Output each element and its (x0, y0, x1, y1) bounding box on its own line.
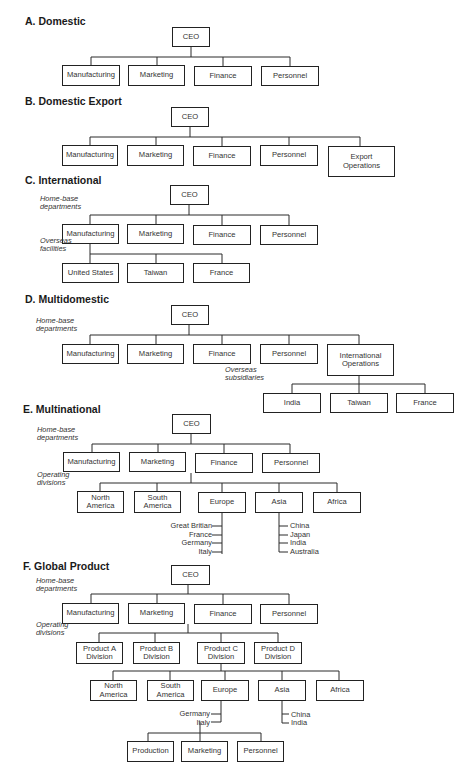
org-box-international-operations: International Operations (327, 344, 394, 376)
level-annotation: Overseas subsidiaries (225, 366, 264, 382)
org-box-export-operations: Export Operations (328, 146, 395, 177)
section-title-c: C. International (25, 174, 101, 186)
org-box-north-america: North America (90, 680, 137, 701)
level-annotation: Operating divisions (36, 621, 68, 637)
org-box-ceo: CEO (172, 27, 210, 47)
org-box-africa: Africa (316, 680, 364, 701)
org-box-asia: Asia (258, 680, 306, 701)
org-box-europe: Europe (201, 680, 249, 701)
org-box-north-america: North America (77, 491, 124, 513)
country-label: China (290, 522, 309, 530)
org-box-marketing: Marketing (127, 344, 184, 364)
section-title-b: B. Domestic Export (25, 95, 122, 107)
country-label: Germany (180, 710, 210, 718)
org-box-manufacturing: Manufacturing (62, 145, 118, 166)
org-box-marketing: Marketing (128, 65, 185, 86)
country-label: India (291, 719, 307, 727)
org-box-manufacturing: Manufacturing (62, 603, 119, 624)
org-box-taiwan: Taiwan (127, 263, 184, 283)
country-label: Italy (196, 719, 210, 727)
org-box-finance: Finance (193, 344, 251, 364)
org-box-marketing: Marketing (129, 452, 186, 472)
org-box-marketing: Marketing (127, 145, 184, 166)
org-box-personnel: Personnel (260, 145, 318, 166)
org-box-finance: Finance (194, 604, 252, 624)
org-box-personnel: Personnel (260, 225, 318, 245)
org-box-manufacturing: Manufacturing (62, 344, 119, 364)
org-box-product-c-division: Product C Division (197, 642, 245, 664)
section-title-e: E. Multinational (23, 403, 101, 415)
section-title-a: A. Domestic (25, 15, 86, 27)
org-box-personnel: Personnel (237, 741, 284, 762)
org-box-finance: Finance (195, 453, 253, 473)
org-box-ceo: CEO (171, 565, 210, 585)
org-box-taiwan: Taiwan (330, 393, 388, 413)
section-title-f: F. Global Product (23, 560, 109, 572)
country-label: Great Britian (171, 522, 213, 530)
org-box-africa: Africa (313, 492, 361, 513)
country-label: Italy (198, 548, 212, 556)
org-box-united-states: United States (62, 263, 119, 283)
org-box-personnel: Personnel (260, 344, 318, 364)
org-box-production: Production (127, 741, 174, 762)
level-annotation: Home-base departments (37, 426, 78, 442)
org-box-product-a-division: Product A Division (76, 642, 123, 664)
country-label: India (290, 539, 306, 547)
org-box-ceo: CEO (171, 305, 209, 325)
org-box-marketing: Marketing (181, 741, 228, 762)
level-annotation: Home-base departments (40, 195, 81, 211)
org-box-personnel: Personnel (262, 453, 320, 473)
level-annotation: Operating divisions (37, 471, 69, 487)
org-box-europe: Europe (198, 492, 246, 513)
country-label: Germany (182, 539, 212, 547)
org-box-manufacturing: Manufacturing (62, 65, 120, 86)
org-box-south-america: South America (134, 491, 181, 513)
org-box-product-b-division: Product B Division (133, 642, 180, 664)
org-structure-figure: A. DomesticCEOManufacturingMarketingFina… (0, 0, 475, 784)
org-box-product-d-division: Product D Division (254, 642, 302, 664)
org-box-france: France (396, 393, 454, 413)
org-box-finance: Finance (193, 146, 251, 166)
country-label: Australia (290, 548, 319, 556)
level-annotation: Home-base departments (36, 317, 77, 333)
org-box-south-america: South America (147, 680, 194, 701)
org-box-france: France (193, 263, 250, 283)
org-box-personnel: Personnel (260, 604, 318, 624)
org-box-finance: Finance (194, 66, 252, 86)
section-title-d: D. Multidomestic (25, 293, 109, 305)
level-annotation: Home-base departments (36, 577, 77, 593)
org-box-india: India (263, 393, 321, 413)
connector-lines (0, 0, 475, 784)
org-box-asia: Asia (255, 492, 303, 513)
org-box-marketing: Marketing (128, 603, 185, 624)
org-box-ceo: CEO (172, 414, 211, 434)
org-box-manufacturing: Manufacturing (63, 452, 120, 472)
org-box-ceo: CEO (170, 185, 209, 205)
org-box-finance: Finance (193, 225, 251, 245)
org-box-ceo: CEO (171, 107, 209, 127)
level-annotation: Overseas facilities (40, 237, 72, 253)
org-box-marketing: Marketing (127, 224, 184, 244)
org-box-personnel: Personnel (261, 66, 319, 86)
